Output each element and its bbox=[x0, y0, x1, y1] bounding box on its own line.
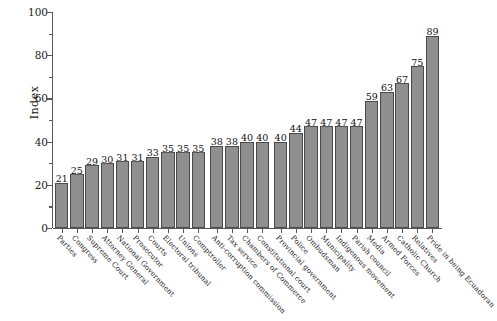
bar bbox=[210, 146, 223, 228]
bar-value-label: 21 bbox=[56, 174, 68, 184]
x-axis-category-labels: PartiesCongressSupreme CourtAttorney Gen… bbox=[0, 234, 454, 321]
bar bbox=[55, 183, 68, 228]
bar-value-label: 29 bbox=[86, 156, 98, 166]
x-axis-tick bbox=[107, 229, 108, 233]
bar-value-label: 40 bbox=[275, 133, 287, 143]
bar-value-label: 47 bbox=[335, 117, 347, 127]
y-axis-tick bbox=[47, 55, 52, 56]
bar bbox=[225, 146, 238, 228]
bar bbox=[274, 142, 287, 228]
bar-value-label: 30 bbox=[101, 154, 113, 164]
y-axis-tick-label: 80 bbox=[18, 50, 48, 60]
bar bbox=[240, 142, 253, 228]
bar-value-label: 40 bbox=[256, 133, 268, 143]
bar bbox=[161, 152, 174, 228]
y-axis-tick-labels: 020406080100 bbox=[18, 12, 48, 228]
x-axis-tick bbox=[217, 229, 218, 233]
bar bbox=[116, 161, 129, 228]
x-axis-tick bbox=[326, 229, 327, 233]
x-axis-tick bbox=[183, 229, 184, 233]
x-axis-tick bbox=[247, 229, 248, 233]
x-axis-tick bbox=[262, 229, 263, 233]
bar-value-label: 35 bbox=[177, 143, 189, 153]
x-axis-tick bbox=[198, 229, 199, 233]
bar bbox=[146, 157, 159, 228]
bar-value-label: 89 bbox=[426, 27, 438, 37]
bar-value-label: 63 bbox=[381, 83, 393, 93]
bar bbox=[192, 152, 205, 228]
x-axis-tick bbox=[62, 229, 63, 233]
bar-value-label: 59 bbox=[366, 92, 378, 102]
bar-value-label: 31 bbox=[132, 152, 144, 162]
bar bbox=[256, 142, 269, 228]
bar bbox=[411, 66, 424, 228]
y-axis-minor-tick bbox=[49, 163, 52, 164]
bar-value-label: 47 bbox=[320, 117, 332, 127]
x-axis-tick bbox=[402, 229, 403, 233]
x-axis-tick bbox=[417, 229, 418, 233]
bar-value-label: 75 bbox=[411, 57, 423, 67]
bar bbox=[289, 133, 302, 228]
y-axis-tick bbox=[47, 12, 52, 13]
bar bbox=[335, 126, 348, 228]
y-axis-tick bbox=[47, 142, 52, 143]
bar-value-label: 33 bbox=[147, 148, 159, 158]
bar-value-label: 67 bbox=[396, 74, 408, 84]
bar-value-label: 44 bbox=[290, 124, 302, 134]
x-axis-tick bbox=[341, 229, 342, 233]
x-axis-tick bbox=[168, 229, 169, 233]
y-axis-tick bbox=[47, 228, 52, 229]
x-axis-tick bbox=[232, 229, 233, 233]
bar-value-label: 31 bbox=[116, 152, 128, 162]
x-axis-tick bbox=[432, 229, 433, 233]
bar bbox=[350, 126, 363, 228]
bar bbox=[426, 36, 439, 228]
x-axis-tick bbox=[92, 229, 93, 233]
y-axis-tick-label: 0 bbox=[18, 223, 48, 233]
y-axis-tick-label: 100 bbox=[18, 7, 48, 17]
bar-value-label: 38 bbox=[211, 137, 223, 147]
bar bbox=[380, 92, 393, 228]
y-axis-minor-tick bbox=[49, 34, 52, 35]
bar bbox=[395, 83, 408, 228]
y-axis-minor-tick bbox=[49, 120, 52, 121]
x-axis-tick bbox=[296, 229, 297, 233]
y-axis-tick bbox=[47, 185, 52, 186]
plot-area: 2125293031313335353538384040404447474747… bbox=[53, 12, 441, 228]
x-axis-tick bbox=[372, 229, 373, 233]
y-axis-tick-label: 40 bbox=[18, 137, 48, 147]
bar bbox=[85, 165, 98, 228]
x-axis-tick bbox=[77, 229, 78, 233]
bar-value-label: 47 bbox=[305, 117, 317, 127]
bar bbox=[131, 161, 144, 228]
x-axis-tick bbox=[122, 229, 123, 233]
bar-value-label: 35 bbox=[192, 143, 204, 153]
y-axis-tick-label: 20 bbox=[18, 180, 48, 190]
y-axis-tick-label: 60 bbox=[18, 93, 48, 103]
bar bbox=[304, 126, 317, 228]
y-axis-minor-tick bbox=[49, 77, 52, 78]
x-axis-tick bbox=[153, 229, 154, 233]
bar-value-label: 47 bbox=[351, 117, 363, 127]
x-axis-tick bbox=[387, 229, 388, 233]
bar-value-label: 38 bbox=[226, 137, 238, 147]
x-axis-tick bbox=[311, 229, 312, 233]
bar-value-label: 40 bbox=[241, 133, 253, 143]
bar-value-label: 25 bbox=[71, 165, 83, 175]
bar bbox=[70, 174, 83, 228]
bar bbox=[365, 101, 378, 228]
y-axis-minor-tick bbox=[49, 206, 52, 207]
bar bbox=[320, 126, 333, 228]
bar bbox=[176, 152, 189, 228]
bar bbox=[101, 163, 114, 228]
bar-value-label: 35 bbox=[162, 143, 174, 153]
y-axis-tick bbox=[47, 98, 52, 99]
